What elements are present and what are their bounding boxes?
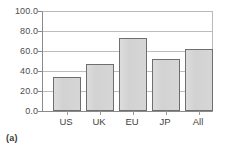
y-tick-label: 60.0 [0,47,38,56]
bar-eu [119,38,147,111]
x-tick-mark [100,111,101,115]
x-tick-label-all: All [184,117,212,127]
bar-us [53,77,81,111]
y-tick-label: 100.0 [0,7,38,16]
x-tick-mark [133,111,134,115]
x-tick-mark [166,111,167,115]
y-tick-label: 40.0 [0,67,38,76]
x-tick-label-jp: JP [151,117,179,127]
y-tick-label: 20.0 [0,87,38,96]
x-tick-mark [199,111,200,115]
x-tick-label-us: US [52,117,80,127]
y-tick-label: 80.0 [0,27,38,36]
figure-panel: 100.0 80.0 60.0 40.0 20.0 0.0 US [0,0,226,151]
y-tick-label: 0.0 [0,107,38,116]
plot-area [42,11,213,112]
x-tick-label-eu: EU [118,117,146,127]
panel-caption: (a) [6,133,18,143]
gridline [43,31,212,32]
bar-jp [152,59,180,111]
bar-all [185,49,213,111]
x-tick-mark [67,111,68,115]
bar-uk [86,64,114,111]
x-tick-label-uk: UK [85,117,113,127]
